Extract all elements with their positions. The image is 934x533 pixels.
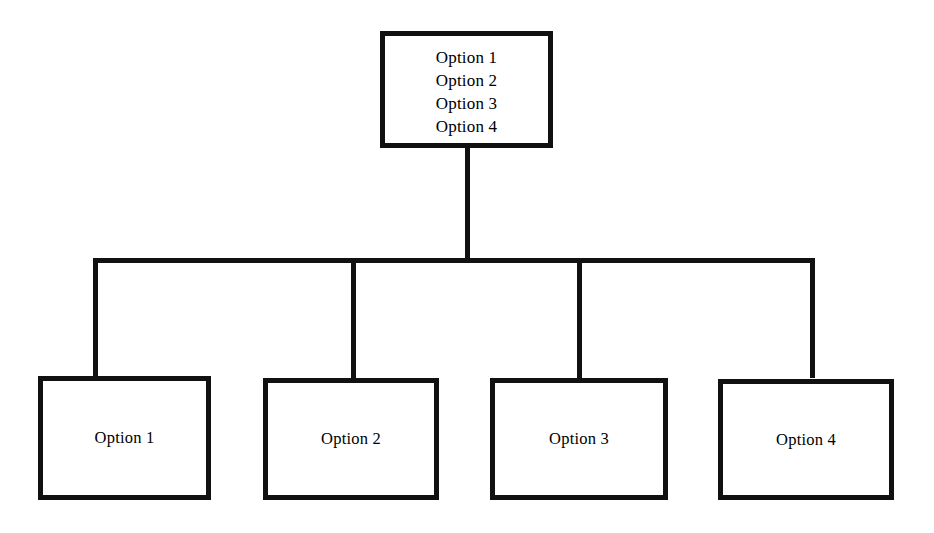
leaf-node-3[interactable]: Option 3 xyxy=(490,378,668,500)
root-node-line-3: Option 3 xyxy=(436,92,498,115)
leaf-node-4[interactable]: Option 4 xyxy=(718,379,894,500)
leaf-node-1-label: Option 1 xyxy=(95,428,155,448)
root-node-line-2: Option 2 xyxy=(436,69,498,92)
connector-drop-3 xyxy=(577,258,582,378)
root-node-line-4: Option 4 xyxy=(436,115,498,138)
connector-root-stem xyxy=(465,146,470,262)
leaf-node-2[interactable]: Option 2 xyxy=(263,378,439,500)
root-node[interactable]: Option 1 Option 2 Option 3 Option 4 xyxy=(380,31,553,148)
leaf-node-3-label: Option 3 xyxy=(549,429,609,449)
connector-drop-2 xyxy=(351,258,356,378)
leaf-node-4-label: Option 4 xyxy=(776,430,836,450)
connector-drop-1 xyxy=(93,258,98,378)
leaf-node-2-label: Option 2 xyxy=(321,429,381,449)
diagram-canvas: Option 1 Option 2 Option 3 Option 4 Opti… xyxy=(0,0,934,533)
connector-horizontal-bus xyxy=(93,258,815,263)
connector-drop-4 xyxy=(810,258,815,378)
leaf-node-1[interactable]: Option 1 xyxy=(38,376,211,500)
root-node-line-1: Option 1 xyxy=(436,46,498,69)
